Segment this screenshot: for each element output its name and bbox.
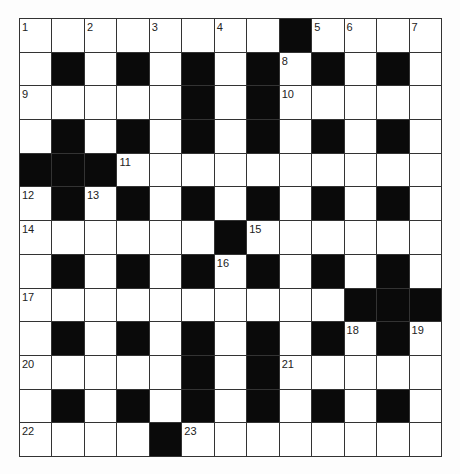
answer-cell[interactable]: 3 (150, 19, 181, 52)
answer-cell[interactable] (150, 187, 181, 220)
answer-cell[interactable] (182, 289, 213, 322)
answer-cell[interactable] (117, 221, 148, 254)
answer-cell[interactable] (312, 154, 343, 187)
answer-cell[interactable] (150, 154, 181, 187)
answer-cell[interactable] (85, 289, 116, 322)
answer-cell[interactable] (345, 423, 376, 456)
answer-cell[interactable] (377, 356, 408, 389)
answer-cell[interactable] (247, 19, 278, 52)
answer-cell[interactable] (410, 120, 441, 153)
answer-cell[interactable] (150, 356, 181, 389)
answer-cell[interactable] (215, 423, 246, 456)
answer-cell[interactable]: 11 (117, 154, 148, 187)
answer-cell[interactable] (150, 390, 181, 423)
answer-cell[interactable] (410, 53, 441, 86)
answer-cell[interactable] (215, 322, 246, 355)
answer-cell[interactable] (410, 154, 441, 187)
answer-cell[interactable]: 18 (345, 322, 376, 355)
answer-cell[interactable] (182, 221, 213, 254)
answer-cell[interactable] (85, 255, 116, 288)
answer-cell[interactable] (215, 390, 246, 423)
answer-cell[interactable] (85, 423, 116, 456)
answer-cell[interactable] (312, 356, 343, 389)
answer-cell[interactable] (280, 322, 311, 355)
answer-cell[interactable] (20, 120, 51, 153)
answer-cell[interactable] (345, 53, 376, 86)
answer-cell[interactable] (52, 356, 83, 389)
answer-cell[interactable]: 15 (247, 221, 278, 254)
answer-cell[interactable]: 8 (280, 53, 311, 86)
answer-cell[interactable] (215, 187, 246, 220)
answer-cell[interactable] (345, 356, 376, 389)
answer-cell[interactable] (150, 322, 181, 355)
answer-cell[interactable]: 4 (215, 19, 246, 52)
answer-cell[interactable]: 23 (182, 423, 213, 456)
answer-cell[interactable] (215, 86, 246, 119)
answer-cell[interactable] (410, 356, 441, 389)
answer-cell[interactable] (280, 390, 311, 423)
answer-cell[interactable] (117, 289, 148, 322)
answer-cell[interactable] (85, 221, 116, 254)
answer-cell[interactable] (182, 19, 213, 52)
answer-cell[interactable] (377, 19, 408, 52)
answer-cell[interactable] (280, 154, 311, 187)
answer-cell[interactable]: 17 (20, 289, 51, 322)
answer-cell[interactable] (410, 221, 441, 254)
answer-cell[interactable] (377, 86, 408, 119)
answer-cell[interactable] (345, 154, 376, 187)
answer-cell[interactable] (247, 423, 278, 456)
answer-cell[interactable] (280, 187, 311, 220)
answer-cell[interactable] (345, 120, 376, 153)
answer-cell[interactable]: 9 (20, 86, 51, 119)
answer-cell[interactable]: 13 (85, 187, 116, 220)
answer-cell[interactable]: 10 (280, 86, 311, 119)
answer-cell[interactable] (377, 221, 408, 254)
answer-cell[interactable]: 22 (20, 423, 51, 456)
answer-cell[interactable] (215, 356, 246, 389)
answer-cell[interactable] (85, 86, 116, 119)
answer-cell[interactable] (20, 322, 51, 355)
answer-cell[interactable] (20, 390, 51, 423)
answer-cell[interactable] (52, 423, 83, 456)
answer-cell[interactable] (20, 53, 51, 86)
answer-cell[interactable] (150, 86, 181, 119)
answer-cell[interactable]: 1 (20, 19, 51, 52)
answer-cell[interactable] (345, 86, 376, 119)
answer-cell[interactable]: 6 (345, 19, 376, 52)
answer-cell[interactable] (345, 255, 376, 288)
answer-cell[interactable] (52, 19, 83, 52)
answer-cell[interactable] (150, 120, 181, 153)
answer-cell[interactable] (410, 255, 441, 288)
answer-cell[interactable] (85, 390, 116, 423)
answer-cell[interactable] (410, 187, 441, 220)
answer-cell[interactable] (280, 289, 311, 322)
answer-cell[interactable] (280, 221, 311, 254)
answer-cell[interactable] (280, 120, 311, 153)
answer-cell[interactable]: 16 (215, 255, 246, 288)
answer-cell[interactable]: 20 (20, 356, 51, 389)
answer-cell[interactable] (85, 356, 116, 389)
answer-cell[interactable] (85, 322, 116, 355)
answer-cell[interactable] (410, 423, 441, 456)
answer-cell[interactable] (215, 154, 246, 187)
answer-cell[interactable] (312, 86, 343, 119)
answer-cell[interactable] (117, 19, 148, 52)
answer-cell[interactable] (150, 255, 181, 288)
answer-cell[interactable] (280, 255, 311, 288)
answer-cell[interactable] (150, 221, 181, 254)
answer-cell[interactable] (52, 289, 83, 322)
answer-cell[interactable] (280, 423, 311, 456)
answer-cell[interactable]: 21 (280, 356, 311, 389)
answer-cell[interactable] (247, 289, 278, 322)
answer-cell[interactable] (410, 390, 441, 423)
answer-cell[interactable] (312, 221, 343, 254)
answer-cell[interactable] (215, 53, 246, 86)
answer-cell[interactable] (117, 423, 148, 456)
answer-cell[interactable] (85, 120, 116, 153)
answer-cell[interactable] (312, 289, 343, 322)
answer-cell[interactable] (215, 289, 246, 322)
answer-cell[interactable]: 14 (20, 221, 51, 254)
answer-cell[interactable] (52, 86, 83, 119)
answer-cell[interactable]: 5 (312, 19, 343, 52)
answer-cell[interactable] (85, 53, 116, 86)
